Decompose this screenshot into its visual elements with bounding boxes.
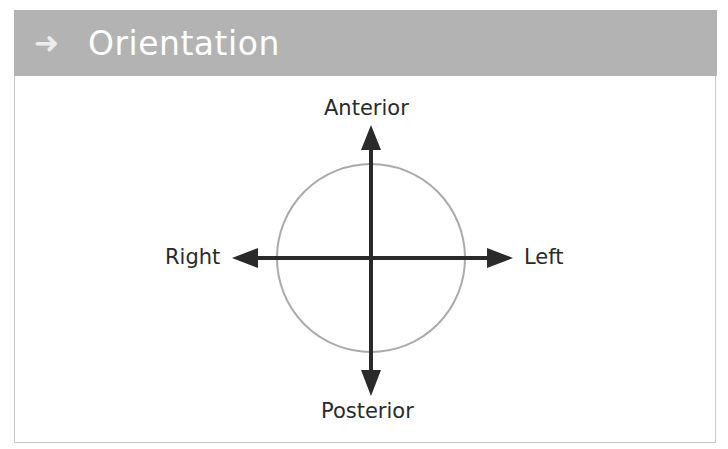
label-posterior: Posterior <box>321 401 414 422</box>
label-right: Right <box>165 247 220 268</box>
vertical-axis-arrow <box>361 125 381 396</box>
orientation-diagram <box>0 0 728 449</box>
label-left: Left <box>524 247 564 268</box>
label-anterior: Anterior <box>324 98 409 119</box>
